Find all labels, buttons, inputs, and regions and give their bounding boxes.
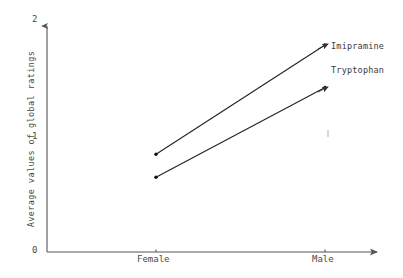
series-label-imipramine: Imipramine	[331, 41, 384, 51]
series-label-tryptophan: Tryptophan	[331, 65, 384, 75]
series-line-tryptophan	[156, 88, 325, 178]
y-tick-label-2: 2	[32, 14, 37, 24]
y-axis-title: Average values of global ratings	[26, 44, 36, 234]
x-tick-label-female: Female	[137, 254, 170, 264]
leader-arrow-tryptophan-icon	[318, 87, 328, 92]
data-point-tryptophan-female	[154, 176, 157, 179]
data-point-imipramine-female	[154, 153, 157, 156]
series-line-imipramine	[156, 45, 325, 154]
y-tick-label-0: 0	[32, 245, 37, 255]
line-chart: 2 1 0 Female Male Average values of glob…	[0, 0, 403, 278]
scan-artifact-mark	[327, 130, 329, 137]
leader-arrow-imipramine-icon	[318, 44, 328, 49]
x-tick-label-male: Male	[312, 254, 334, 264]
